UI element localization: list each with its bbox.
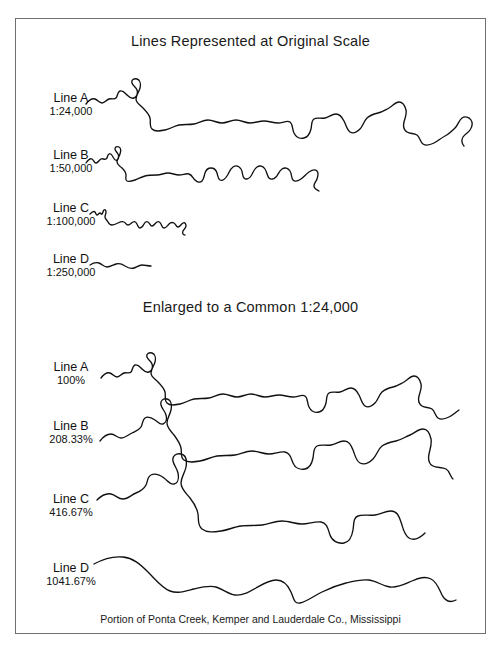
label-line-d-original-name: Line D xyxy=(23,252,119,266)
label-line-b-original: Line B 1:50,000 xyxy=(23,148,119,175)
label-line-a-enlarged: Line A 100% xyxy=(23,360,119,387)
section-heading-original-scale: Lines Represented at Original Scale xyxy=(0,33,501,49)
label-line-c-original-scale: 1:100,000 xyxy=(23,215,119,228)
label-line-d-enlarged: Line D 1041.67% xyxy=(23,561,119,588)
label-line-a-original-name: Line A xyxy=(23,91,119,105)
label-line-b-enlarged-pct: 208.33% xyxy=(23,433,119,446)
section-heading-common-scale: Enlarged to a Common 1:24,000 xyxy=(0,299,501,315)
figure-caption: Portion of Ponta Creek, Kemper and Laude… xyxy=(0,613,501,625)
label-line-d-original: Line D 1:250,000 xyxy=(23,252,119,279)
label-line-a-original: Line A 1:24,000 xyxy=(23,91,119,118)
label-line-c-enlarged-pct: 416.67% xyxy=(23,506,119,519)
label-line-b-enlarged: Line B 208.33% xyxy=(23,419,119,446)
label-line-b-original-name: Line B xyxy=(23,148,119,162)
label-line-b-enlarged-name: Line B xyxy=(23,419,119,433)
label-line-d-enlarged-name: Line D xyxy=(23,561,119,575)
label-line-a-enlarged-pct: 100% xyxy=(23,374,119,387)
label-line-a-enlarged-name: Line A xyxy=(23,360,119,374)
label-line-c-enlarged-name: Line C xyxy=(23,492,119,506)
label-line-b-original-scale: 1:50,000 xyxy=(23,162,119,175)
label-line-c-original: Line C 1:100,000 xyxy=(23,201,119,228)
label-line-d-enlarged-pct: 1041.67% xyxy=(23,575,119,588)
figure-root: Lines Represented at Original Scale Enla… xyxy=(0,0,501,653)
label-line-d-original-scale: 1:250,000 xyxy=(23,266,119,279)
label-line-c-original-name: Line C xyxy=(23,201,119,215)
label-line-a-original-scale: 1:24,000 xyxy=(23,105,119,118)
label-line-c-enlarged: Line C 416.67% xyxy=(23,492,119,519)
